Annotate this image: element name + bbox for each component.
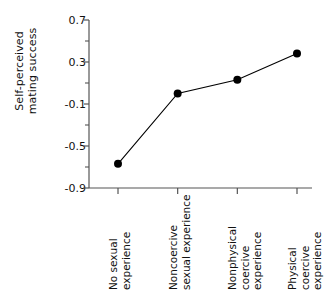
x-ticks bbox=[118, 188, 297, 194]
data-point-2 bbox=[233, 76, 241, 84]
x-tick-label-3: Physical coercive experience bbox=[286, 190, 324, 290]
plot-area bbox=[0, 0, 328, 297]
axis-lines bbox=[89, 20, 312, 188]
data-point-3 bbox=[293, 50, 301, 58]
data-point-1 bbox=[174, 90, 182, 98]
data-markers bbox=[114, 50, 301, 168]
x-tick-label-2: Nonphysical coercive experience bbox=[226, 190, 264, 290]
x-tick-label-0: No sexual experience bbox=[107, 190, 132, 290]
data-line bbox=[118, 54, 297, 164]
y-major-ticks bbox=[84, 20, 89, 188]
data-point-0 bbox=[114, 160, 122, 168]
chart-figure: Self-perceived mating success 0.7 0.3 -0… bbox=[0, 0, 328, 297]
x-tick-label-1: Noncoercive sexual experience bbox=[167, 190, 192, 290]
